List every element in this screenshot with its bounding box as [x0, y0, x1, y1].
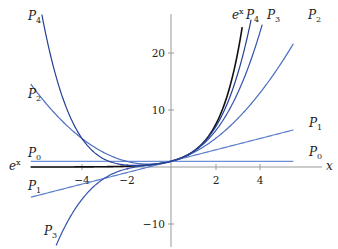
- x-tick-label: −2: [119, 174, 134, 186]
- x-tick-label: 4: [257, 174, 264, 186]
- p3-bottom-label: P3: [43, 224, 57, 240]
- p4-left-label: P4: [27, 9, 41, 25]
- curve-p4: [42, 14, 251, 165]
- p0-left-label: P0: [27, 146, 41, 162]
- p3-top-label: P3: [266, 8, 280, 24]
- y-tick-label: 10: [152, 104, 165, 116]
- ex-left-label: ex: [9, 158, 21, 173]
- x-axis-label: x: [326, 159, 333, 173]
- taylor-polynomials-plot: −4 −2 2 4 20 10 −10 x ex ex P4 P3 P2 P1 …: [0, 0, 338, 249]
- p4-top-label: P4: [245, 8, 259, 24]
- p0-right-label: P0: [308, 145, 322, 161]
- ex-top-label: ex: [232, 7, 244, 22]
- p2-top-label: P2: [307, 8, 321, 24]
- p2-left-label: P2: [27, 87, 41, 103]
- p1-left-label: P1: [27, 179, 41, 195]
- y-tick-label: 20: [152, 47, 165, 59]
- y-tick-label: −10: [143, 218, 165, 230]
- p1-right-label: P1: [308, 116, 322, 132]
- x-tick-label: 2: [213, 174, 220, 186]
